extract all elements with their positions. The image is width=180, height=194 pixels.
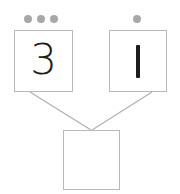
number-bond-widget: 3 1 [0, 0, 180, 194]
connector-left-to-sum [30, 92, 91, 130]
left-dot-group [24, 15, 58, 23]
sum-answer-box[interactable] [63, 130, 120, 190]
left-addend-value: 3 [30, 39, 57, 81]
right-dot-group [133, 15, 141, 23]
counter-dot-icon [37, 15, 45, 23]
right-addend-box[interactable]: 1 [109, 30, 167, 92]
left-addend-box[interactable]: 3 [14, 30, 73, 92]
counter-dot-icon [50, 15, 58, 23]
counter-dot-icon [133, 15, 141, 23]
connector-right-to-sum [92, 92, 152, 130]
right-addend-value-stroke [136, 45, 140, 78]
counter-dot-icon [24, 15, 32, 23]
